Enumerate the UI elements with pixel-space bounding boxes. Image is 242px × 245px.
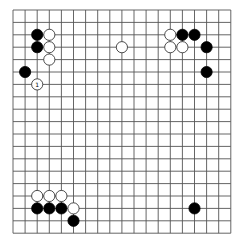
black-stone bbox=[20, 66, 31, 77]
black-stone bbox=[201, 42, 212, 53]
black-stone bbox=[56, 203, 67, 214]
white-stone: 1 bbox=[32, 79, 43, 90]
black-stone bbox=[68, 215, 79, 226]
white-stone bbox=[44, 42, 55, 53]
white-stone bbox=[56, 190, 67, 201]
white-stone bbox=[116, 42, 127, 53]
white-stone bbox=[32, 190, 43, 201]
stones-layer: 1 bbox=[20, 29, 213, 226]
white-stone bbox=[165, 29, 176, 40]
black-stone bbox=[32, 29, 43, 40]
white-stone bbox=[44, 29, 55, 40]
white-stone bbox=[165, 42, 176, 53]
white-stone bbox=[44, 54, 55, 65]
black-stone bbox=[189, 203, 200, 214]
black-stone bbox=[177, 29, 188, 40]
white-stone bbox=[68, 203, 79, 214]
black-stone bbox=[32, 203, 43, 214]
black-stone bbox=[189, 29, 200, 40]
white-stone bbox=[177, 42, 188, 53]
move-number-label: 1 bbox=[35, 81, 39, 88]
white-stone bbox=[44, 190, 55, 201]
black-stone bbox=[32, 42, 43, 53]
go-board[interactable]: 1 bbox=[0, 0, 242, 245]
black-stone bbox=[201, 66, 212, 77]
black-stone bbox=[44, 203, 55, 214]
